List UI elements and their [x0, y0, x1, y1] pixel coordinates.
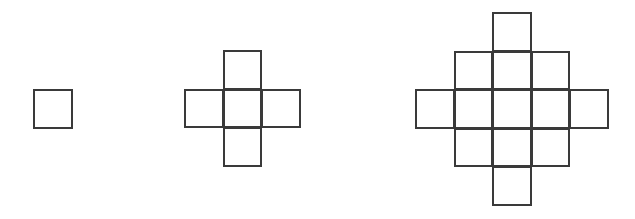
tile-square: [454, 89, 494, 129]
tile-square: [184, 89, 224, 129]
tile-square: [492, 128, 532, 168]
tile-square: [569, 89, 609, 129]
tile-square: [261, 89, 301, 129]
tile-square: [454, 51, 494, 91]
tile-square: [33, 89, 73, 129]
tile-square: [454, 128, 494, 168]
tile-square: [492, 51, 532, 91]
tile-square: [531, 128, 571, 168]
tile-square: [531, 89, 571, 129]
tile-square: [531, 51, 571, 91]
tile-square: [223, 50, 263, 90]
tile-square: [415, 89, 455, 129]
tile-square: [223, 89, 263, 129]
tile-square: [223, 127, 263, 167]
tile-square: [492, 166, 532, 206]
tile-square: [492, 12, 532, 52]
tile-square: [492, 89, 532, 129]
